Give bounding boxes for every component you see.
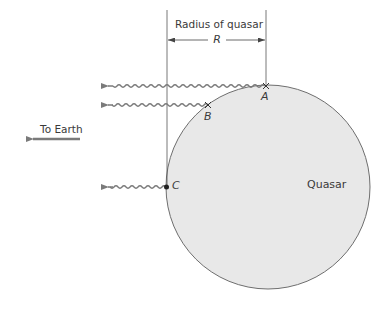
- light-wave-c: [110, 186, 166, 189]
- quasar-diagram: [0, 0, 391, 318]
- point-b-label: B: [204, 110, 212, 123]
- point-c-marker: [164, 185, 169, 190]
- to-earth-label: To Earth: [40, 123, 83, 135]
- light-wave-b: [112, 104, 208, 107]
- quasar-label: Quasar: [307, 178, 346, 191]
- point-a-label: A: [261, 90, 269, 103]
- radius-symbol-label: R: [210, 33, 224, 46]
- light-wave-a: [113, 85, 265, 88]
- radius-title-label: Radius of quasar: [175, 18, 259, 30]
- point-c-label: C: [172, 179, 180, 192]
